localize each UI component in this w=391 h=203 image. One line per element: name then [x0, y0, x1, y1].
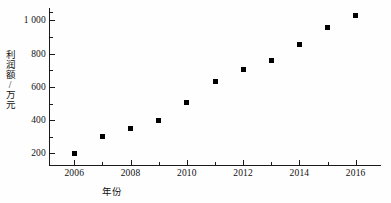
- x-axis-tick: [187, 160, 188, 165]
- y-axis-tick-label: 600: [2, 82, 46, 92]
- x-axis-minor-tick: [328, 162, 329, 165]
- y-axis-tick: [50, 87, 55, 88]
- y-axis-minor-tick: [50, 12, 53, 13]
- data-point: [184, 100, 189, 105]
- y-axis-tick-label: 1 000: [2, 15, 46, 25]
- y-axis-tick-label: 200: [2, 148, 46, 158]
- y-axis-tick: [50, 54, 55, 55]
- data-point: [128, 126, 133, 131]
- y-axis-tick-label: 400: [2, 115, 46, 125]
- data-point: [353, 13, 358, 18]
- scatter-chart: 利润额/万元 2004006008001 000 年份 200620082010…: [0, 0, 391, 203]
- x-axis-tick: [74, 160, 75, 165]
- y-axis-tick: [50, 20, 55, 21]
- y-axis-minor-tick: [50, 37, 53, 38]
- x-axis-title-text: 年份: [102, 184, 122, 198]
- x-axis-tick: [243, 160, 244, 165]
- x-axis-minor-tick: [102, 162, 103, 165]
- x-axis-minor-tick: [215, 162, 216, 165]
- y-axis-minor-tick: [50, 104, 53, 105]
- data-point: [325, 25, 330, 30]
- x-axis-tick-label: 2012: [223, 168, 263, 178]
- y-axis-tick-label: 800: [2, 49, 46, 59]
- data-point: [213, 79, 218, 84]
- data-point: [269, 58, 274, 63]
- x-axis-title: 年份: [0, 184, 391, 198]
- x-axis-tick: [356, 160, 357, 165]
- x-axis-tick: [299, 160, 300, 165]
- y-axis-minor-tick: [50, 137, 53, 138]
- x-axis-tick-label: 2008: [111, 168, 151, 178]
- x-axis-line: [49, 165, 381, 166]
- plot-area: [49, 8, 381, 165]
- x-axis-tick: [131, 160, 132, 165]
- data-point: [241, 67, 246, 72]
- data-point: [156, 118, 161, 123]
- y-axis-tick: [50, 153, 55, 154]
- y-axis-tick-labels: 2004006008001 000: [0, 0, 46, 203]
- data-point: [297, 42, 302, 47]
- x-axis-minor-tick: [271, 162, 272, 165]
- data-point: [72, 151, 77, 156]
- x-axis-tick-label: 2006: [54, 168, 94, 178]
- x-axis-tick-label: 2010: [167, 168, 207, 178]
- x-axis-minor-tick: [159, 162, 160, 165]
- data-point: [100, 134, 105, 139]
- y-axis-minor-tick: [50, 70, 53, 71]
- x-axis-tick-label: 2016: [336, 168, 376, 178]
- y-axis-tick: [50, 120, 55, 121]
- x-axis-tick-label: 2014: [279, 168, 319, 178]
